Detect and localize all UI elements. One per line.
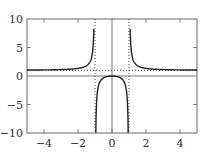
x-tick-label: 4 <box>177 137 184 150</box>
y-tick-label: −5 <box>7 99 23 112</box>
y-tick-label: 5 <box>16 42 23 55</box>
y-tick-labels: 10 5 0 −5 −10 <box>0 13 23 140</box>
x-tick-labels: −4 −2 0 2 4 <box>36 137 184 150</box>
chart: −4 −2 0 2 4 10 5 0 −5 −10 <box>0 0 208 155</box>
curve-right <box>130 29 197 70</box>
y-tick-label: 0 <box>16 70 23 83</box>
x-tick-label: −2 <box>70 137 86 150</box>
x-tick-label: 2 <box>143 137 150 150</box>
x-tick-label: −4 <box>36 137 52 150</box>
x-tick-label: 0 <box>109 137 116 150</box>
curve-left <box>27 29 94 70</box>
y-tick-label: −10 <box>0 127 23 140</box>
y-tick-label: 10 <box>9 13 23 26</box>
